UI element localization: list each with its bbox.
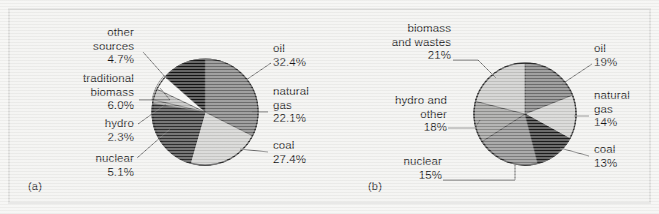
callout-a-traditional-biomass-percent: 6.0% bbox=[83, 99, 134, 113]
leader-b-oil bbox=[562, 64, 592, 84]
callout-a-traditional-biomass-line2: biomass bbox=[83, 86, 134, 100]
callout-a-other-sources-line1: other bbox=[93, 26, 134, 40]
callout-a-coal-percent: 27.4% bbox=[273, 153, 306, 167]
callout-a-traditional-biomass: traditional biomass 6.0% bbox=[83, 72, 134, 113]
callout-b-biomass-and-wastes: biomass and wastes 21% bbox=[392, 22, 451, 63]
panel-b: biomass and wastes 21% hydro and other 1… bbox=[330, 0, 659, 214]
callout-b-oil-label: oil bbox=[594, 42, 617, 56]
callout-b-coal-label: coal bbox=[594, 143, 617, 157]
callout-b-nuclear-percent: 15% bbox=[404, 169, 442, 183]
callout-b-hydro-and-other: hydro and other 18% bbox=[395, 94, 447, 135]
callout-b-natural-gas: natural gas 14% bbox=[594, 89, 630, 130]
callout-a-other-sources: other sources 4.7% bbox=[93, 26, 134, 67]
callout-b-biomass-line1: biomass bbox=[392, 22, 451, 36]
callout-b-hydro-line2: other bbox=[395, 108, 447, 122]
callout-b-biomass-percent: 21% bbox=[392, 49, 451, 63]
leader-b-nuclear bbox=[443, 165, 515, 180]
callout-a-natural-gas-line2: gas bbox=[273, 99, 309, 113]
callout-a-oil-percent: 32.4% bbox=[273, 56, 306, 70]
callout-a-other-sources-line2: sources bbox=[93, 40, 134, 54]
leader-b-coal bbox=[560, 148, 589, 156]
leader-a-oil bbox=[246, 63, 271, 80]
callout-a-nuclear-label: nuclear bbox=[96, 152, 134, 166]
callout-a-other-sources-percent: 4.7% bbox=[93, 53, 134, 67]
callout-b-natural-gas-percent: 14% bbox=[594, 116, 630, 130]
callout-a-nuclear-percent: 5.1% bbox=[96, 166, 134, 180]
callout-b-coal-percent: 13% bbox=[594, 157, 617, 171]
callout-b-natural-gas-line1: natural bbox=[594, 89, 630, 103]
panel-b-tag: (b) bbox=[368, 180, 382, 192]
figure-root: other sources 4.7% traditional biomass 6… bbox=[0, 0, 659, 214]
leader-a-coal bbox=[240, 149, 268, 152]
callout-a-oil-label: oil bbox=[273, 42, 306, 56]
callout-b-hydro-line1: hydro and bbox=[395, 94, 447, 108]
callout-b-oil: oil 19% bbox=[594, 42, 617, 69]
callout-a-coal: coal 27.4% bbox=[273, 139, 306, 166]
leader-a-other-sources bbox=[143, 52, 167, 79]
callout-a-coal-label: coal bbox=[273, 139, 306, 153]
callout-b-biomass-line2: and wastes bbox=[392, 36, 451, 50]
callout-b-natural-gas-line2: gas bbox=[594, 103, 630, 117]
callout-b-oil-percent: 19% bbox=[594, 56, 617, 70]
callout-a-nuclear: nuclear 5.1% bbox=[96, 152, 134, 179]
callout-b-nuclear: nuclear 15% bbox=[404, 155, 442, 182]
callout-a-natural-gas: natural gas 22.1% bbox=[273, 85, 309, 126]
callout-b-nuclear-label: nuclear bbox=[404, 155, 442, 169]
callout-a-hydro: hydro 2.3% bbox=[105, 117, 134, 144]
callout-a-hydro-label: hydro bbox=[105, 117, 134, 131]
leader-b-biomass bbox=[453, 60, 496, 78]
callout-b-coal: coal 13% bbox=[594, 143, 617, 170]
callout-a-natural-gas-percent: 22.1% bbox=[273, 112, 309, 126]
callout-a-natural-gas-line1: natural bbox=[273, 85, 309, 99]
callout-a-traditional-biomass-line1: traditional bbox=[83, 72, 134, 86]
callout-a-hydro-percent: 2.3% bbox=[105, 131, 134, 145]
panel-a-tag: (a) bbox=[28, 180, 42, 192]
panel-a: other sources 4.7% traditional biomass 6… bbox=[0, 0, 330, 214]
callout-a-oil: oil 32.4% bbox=[273, 42, 306, 69]
callout-b-hydro-percent: 18% bbox=[395, 121, 447, 135]
